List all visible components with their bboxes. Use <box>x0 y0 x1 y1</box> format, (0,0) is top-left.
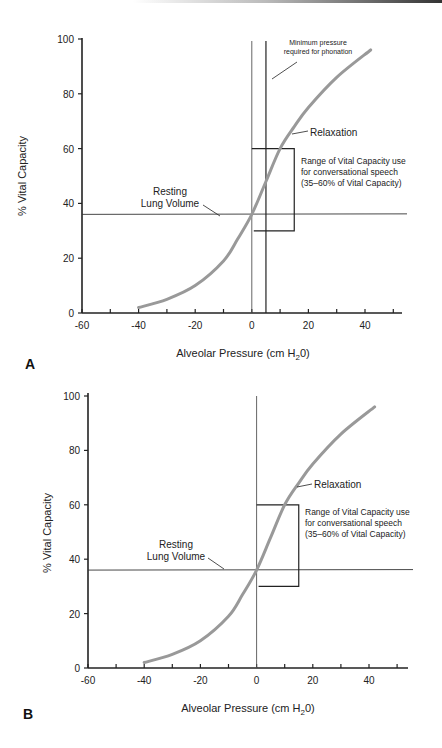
range-label-line3: (35–60% of Vital Capacity) <box>305 529 406 539</box>
y-axis-title: % Vital Capacity <box>16 136 28 216</box>
y-tick-label: 100 <box>57 34 74 45</box>
resting-lung-volume-line <box>88 570 413 571</box>
range-label-line1: Range of Vital Capacity use <box>301 156 406 166</box>
y-tick-label: 80 <box>63 89 75 100</box>
chart-panel-b: -60-40-2002040020406080100 % Vital Capac… <box>0 370 442 748</box>
phonation-leader <box>272 62 297 79</box>
x-tick-label: 0 <box>249 320 255 331</box>
x-tick-label: -40 <box>137 675 152 686</box>
relaxation-label: Relaxation <box>310 127 357 138</box>
phonation-label-line1: Minimum pressure <box>289 39 347 47</box>
range-label-line1: Range of Vital Capacity use <box>305 507 410 517</box>
chart-panel-a: -60-40-2002040020406080100 % Vital Capac… <box>0 0 442 370</box>
x-tick-label: 20 <box>303 320 315 331</box>
y-tick-label: 60 <box>63 144 75 155</box>
x-tick-label: 40 <box>359 320 371 331</box>
resting-lung-volume-line <box>82 214 407 215</box>
x-tick-label: -40 <box>131 320 146 331</box>
x-tick-label: -20 <box>188 320 203 331</box>
resting-label-line1: Resting <box>153 186 187 197</box>
x-tick-label: 20 <box>307 675 319 686</box>
y-tick-label: 0 <box>68 308 74 319</box>
phonation-label-line2: required for phonation <box>284 48 353 56</box>
resting-label-line1: Resting <box>159 539 193 550</box>
resting-leader <box>208 558 224 569</box>
y-tick-label: 20 <box>63 253 75 264</box>
y-axis-title: % Vital Capacity <box>41 493 53 573</box>
x-axis-title: Alveolar Pressure (cm H20) <box>176 347 309 362</box>
y-tick-label: 20 <box>69 609 81 620</box>
y-tick-label: 100 <box>63 391 80 402</box>
y-tick-label: 0 <box>74 663 80 674</box>
resting-label-line2: Lung Volume <box>141 198 200 209</box>
y-tick-label: 60 <box>69 500 81 511</box>
relaxation-leader <box>292 131 308 134</box>
y-tick-label: 40 <box>69 554 81 565</box>
panel-label-b: B <box>23 706 33 722</box>
y-tick-label: 80 <box>69 445 81 456</box>
range-label-line2: for conversational speech <box>305 518 402 528</box>
relaxation-label: Relaxation <box>314 479 361 490</box>
x-axis-title: Alveolar Pressure (cm H20) <box>181 702 314 717</box>
x-tick-label: -60 <box>81 675 96 686</box>
reference-lines <box>82 41 407 313</box>
range-label-line3: (35–60% of Vital Capacity) <box>301 178 402 188</box>
x-tick-label: -20 <box>193 675 208 686</box>
x-tick-label: 0 <box>254 675 260 686</box>
x-tick-label: 40 <box>363 675 375 686</box>
y-tick-label: 40 <box>63 198 75 209</box>
resting-label-line2: Lung Volume <box>147 551 206 562</box>
range-label-line2: for conversational speech <box>301 167 398 177</box>
x-tick-label: -60 <box>75 320 90 331</box>
